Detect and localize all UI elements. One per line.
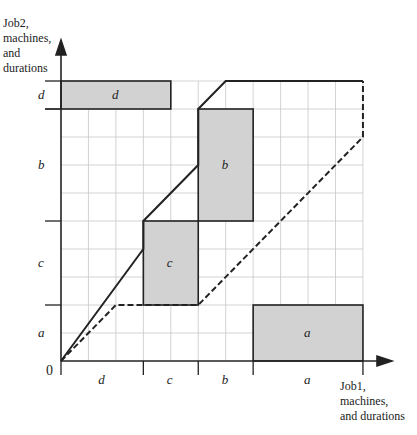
job1-machine-d: d [98,372,105,387]
x-axis-arrow-icon [377,356,392,366]
obstacle-label-d: d [112,87,119,102]
y-axis-label: Job2, machines, and durations [3,16,51,76]
job-shop-diagram [0,0,417,435]
obstacle-label-a: a [304,325,311,340]
job2-machine-a: a [38,325,45,340]
job1-machine-b: b [222,372,229,387]
job2-machine-c: c [38,255,44,270]
x-axis-label: Job1, machines, and durations [340,379,405,424]
obstacle-label-b: b [222,157,229,172]
job2-machine-d: d [38,87,45,102]
origin-label: 0 [46,363,53,378]
job1-machine-a: a [304,372,311,387]
job1-machine-c: c [167,372,173,387]
y-axis-arrow-icon [56,40,66,55]
obstacle-label-c: c [167,255,173,270]
job2-machine-b: b [38,157,45,172]
